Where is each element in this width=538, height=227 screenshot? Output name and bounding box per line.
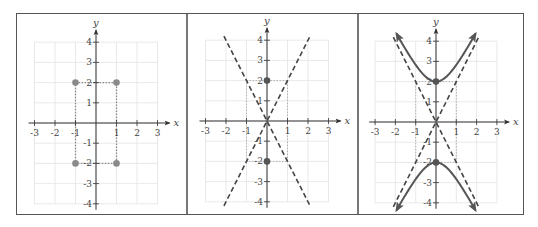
data-point [72,160,79,167]
data-point [264,77,271,84]
y-tick-label: -4 [83,199,92,209]
y-tick-label: 3 [86,57,92,67]
y-tick-label: 1 [86,98,92,108]
y-tick-label: 2 [257,76,263,86]
x-tick-label: 1 [285,126,291,136]
x-tick-label: 3 [494,127,500,137]
x-tick-label: 2 [134,128,140,138]
y-tick-label: -4 [423,198,432,208]
figure-frame: xy-3-2-11234321-1-2-3-4 xy-3-2-11234321-… [16,13,524,215]
chart-panel-2: xy-3-2-11234321-1-2-3-4 [187,14,358,216]
x-tick-label: -1 [411,127,420,137]
x-tick-label: -3 [371,127,380,137]
x-tick-label: -1 [242,126,251,136]
y-tick-label: 4 [426,36,432,46]
panel-rectangle-points: xy-3-2-11234321-1-2-3-4 [17,14,187,214]
data-point [264,158,271,165]
data-point [113,160,120,167]
y-tick-label: 4 [86,37,92,47]
x-tick-label: -2 [51,128,60,138]
y-tick-label: -4 [254,197,263,207]
x-tick-label: -3 [201,126,210,136]
y-tick-label: -1 [83,138,92,148]
x-tick-label: -2 [391,127,400,137]
y-axis-label: y [92,17,99,28]
y-axis-label: y [432,16,439,27]
y-tick-label: 4 [257,35,263,45]
x-tick-label: 3 [155,128,161,138]
x-tick-label: -1 [71,128,80,138]
y-tick-label: -3 [83,179,92,189]
data-point [113,79,120,86]
x-tick-label: 1 [453,127,459,137]
chart-panel-1: xy-3-2-11234321-1-2-3-4 [17,14,187,216]
y-tick-label: 2 [86,78,92,88]
panel-asymptotes: xy-3-2-11234321-1-2-3-4 [187,14,358,214]
data-point [72,79,79,86]
y-tick-label: 3 [426,56,432,66]
y-tick-label: 3 [257,55,263,65]
x-axis-label: x [513,116,519,127]
y-tick-label: -2 [254,156,263,166]
x-tick-label: -3 [30,128,39,138]
chart-panel-3: xy-3-2-11234321-1-2-3-4 [358,14,525,216]
data-point [433,159,440,166]
x-tick-label: -2 [222,126,231,136]
panel-hyperbola: xy-3-2-11234321-1-2-3-4 [358,14,525,214]
data-point [433,78,440,85]
y-tick-label: -3 [254,177,263,187]
y-tick-label: -3 [423,178,432,188]
x-tick-label: 2 [474,127,480,137]
x-tick-label: 1 [114,128,120,138]
x-tick-label: 3 [326,126,332,136]
x-tick-label: 2 [305,126,311,136]
y-axis-label: y [263,15,270,26]
x-axis-label: x [345,115,351,126]
y-tick-label: -2 [83,158,92,168]
x-axis-label: x [174,117,180,128]
